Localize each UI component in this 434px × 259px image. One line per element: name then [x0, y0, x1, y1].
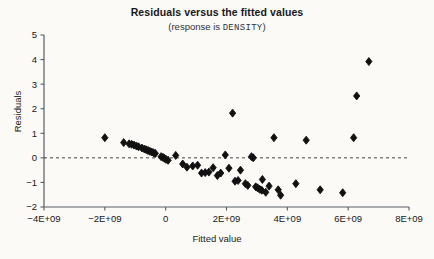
- x-tick-label: −4E+09: [27, 213, 60, 224]
- data-point: [237, 166, 243, 174]
- data-point: [222, 151, 228, 159]
- y-tick-label: 4: [32, 54, 37, 65]
- data-point: [226, 164, 232, 172]
- y-tick-label: 2: [32, 103, 37, 114]
- y-tick-label: 0: [32, 152, 37, 163]
- data-point: [271, 134, 277, 142]
- y-tick-label: −1: [26, 177, 37, 188]
- data-point: [229, 109, 235, 117]
- data-point: [194, 161, 200, 169]
- data-point: [266, 182, 272, 190]
- x-tick-label: 8E+09: [395, 213, 423, 224]
- y-axis: −2−1012345: [26, 29, 44, 212]
- data-point: [340, 189, 346, 197]
- data-points: [102, 58, 372, 200]
- y-tick-label: 1: [32, 128, 37, 139]
- data-point: [366, 58, 372, 66]
- residual-plot: Residuals versus the fitted values (resp…: [0, 0, 434, 259]
- data-point: [354, 92, 360, 100]
- x-axis: −4E+09−2E+0902E+094E+096E+098E+09: [27, 207, 423, 224]
- x-tick-label: 2E+09: [213, 213, 241, 224]
- data-point: [293, 180, 299, 188]
- data-point: [351, 134, 357, 142]
- data-point: [121, 139, 127, 147]
- data-point: [317, 186, 323, 194]
- plot-canvas: −2−1012345 −4E+09−2E+0902E+094E+096E+098…: [0, 0, 434, 259]
- y-tick-label: 3: [32, 79, 37, 90]
- y-tick-label: −2: [26, 201, 37, 212]
- x-tick-label: 0: [163, 213, 168, 224]
- x-tick-label: −2E+09: [88, 213, 121, 224]
- y-tick-label: 5: [32, 29, 37, 40]
- x-tick-label: 6E+09: [334, 213, 362, 224]
- data-point: [259, 175, 265, 183]
- data-point: [102, 134, 108, 142]
- x-tick-label: 4E+09: [273, 213, 301, 224]
- data-point: [303, 136, 309, 144]
